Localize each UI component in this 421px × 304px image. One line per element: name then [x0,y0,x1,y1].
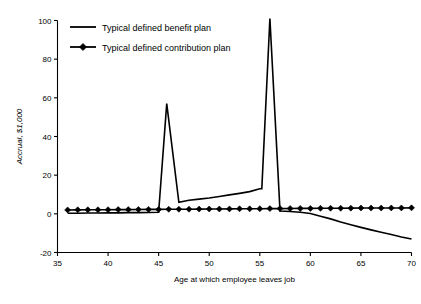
series-marker-diamond [348,205,354,211]
x-axis-title: Age at which employee leaves job [174,275,296,284]
series-marker-diamond [237,206,243,212]
series-marker-diamond [368,205,374,211]
x-tick-label: 50 [205,259,214,268]
x-tick-label: 35 [53,259,62,268]
series-marker-diamond [115,207,121,213]
series-marker-diamond [146,206,152,212]
series-marker-diamond [196,206,202,212]
series-marker-diamond [226,206,232,212]
series-marker-diamond [338,205,344,211]
series-marker-diamond [358,205,364,211]
x-tick-label: 65 [356,259,365,268]
y-tick-label: -20 [40,249,52,258]
series-marker-diamond [398,205,404,211]
series-marker-diamond [206,206,212,212]
y-tick-label: 40 [43,133,52,142]
series-marker-diamond [95,207,101,213]
x-tick-label: 55 [255,259,264,268]
series-marker-diamond [75,207,81,213]
series-marker-diamond [247,206,253,212]
series-marker-diamond [156,206,162,212]
x-tick-label: 40 [104,259,113,268]
series-marker-diamond [125,207,131,213]
series-marker-diamond [176,206,182,212]
y-tick-label: 0 [47,210,52,219]
y-axis-title: Accrual, $1,000 [15,108,24,165]
series-marker-diamond [267,206,273,212]
series-marker-diamond [85,207,91,213]
series-marker-diamond [216,206,222,212]
series-marker-diamond [257,206,263,212]
y-tick-label: 80 [43,55,52,64]
legend-label-defined-benefit-plan: Typical defined benefit plan [102,23,211,33]
chart-container: -200204060801003540455055606570Age at wh… [0,0,421,304]
y-tick-label: 20 [43,171,52,180]
series-marker-diamond [166,206,172,212]
series-marker-diamond [135,206,141,212]
series-marker-diamond [186,206,192,212]
series-marker-diamond [388,205,394,211]
y-tick-label: 60 [43,94,52,103]
y-tick-label: 100 [38,17,52,26]
legend-marker-diamond [79,43,86,50]
series-marker-diamond [105,207,111,213]
series-marker-diamond [297,205,303,211]
series-marker-diamond [409,205,415,211]
series-marker-diamond [378,205,384,211]
series-marker-diamond [307,205,313,211]
x-tick-label: 70 [407,259,416,268]
line-chart: -200204060801003540455055606570Age at wh… [0,0,421,304]
series-marker-diamond [65,207,71,213]
series-marker-diamond [328,205,334,211]
x-tick-label: 60 [306,259,315,268]
legend-label-defined-contribution-plan: Typical defined contribution plan [102,43,231,53]
x-tick-label: 45 [154,259,163,268]
series-marker-diamond [317,205,323,211]
